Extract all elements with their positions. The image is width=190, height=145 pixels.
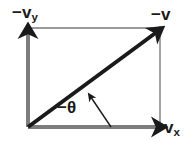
y-component-label: −vy — [12, 4, 38, 23]
angle-label: −θ — [57, 99, 76, 116]
y-component-label-subscript: y — [31, 11, 37, 23]
x-component-label-subscript: x — [173, 126, 179, 138]
x-component-label: vx — [164, 119, 180, 138]
vector-diagram-figure: −vy −v vx −θ — [0, 0, 190, 145]
resultant-vector-label: −v — [151, 6, 170, 23]
angle-label-text: −θ — [57, 98, 76, 117]
resultant-vector-label-text: −v — [151, 5, 170, 24]
resultant-vector-arrow — [28, 32, 158, 128]
y-component-label-text: −v — [12, 3, 31, 22]
angle-pointer-arrow — [91, 97, 112, 128]
